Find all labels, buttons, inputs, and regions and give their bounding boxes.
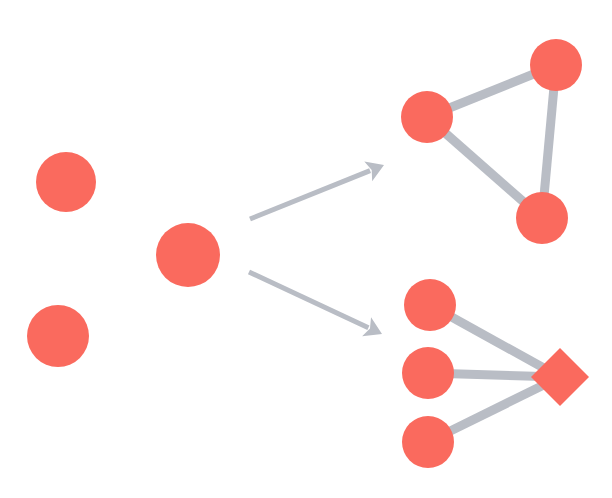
arrow-shaft	[249, 272, 368, 328]
graph-node-circle[interactable]	[402, 416, 454, 468]
graph-node-circle[interactable]	[530, 39, 582, 91]
diagram-svg	[0, 0, 612, 498]
arrow-shaft	[250, 171, 370, 219]
graph-node-diamond[interactable]	[531, 348, 589, 406]
graph-node-circle[interactable]	[401, 91, 453, 143]
graph-node-circle[interactable]	[404, 279, 456, 331]
graph-node-circle[interactable]	[516, 192, 568, 244]
graph-node-circle[interactable]	[36, 152, 96, 212]
graph-node-circle[interactable]	[402, 347, 454, 399]
diagram-canvas	[0, 0, 612, 498]
graph-node-circle[interactable]	[156, 223, 220, 287]
arrows-layer	[249, 162, 384, 337]
graph-node-circle[interactable]	[27, 305, 89, 367]
